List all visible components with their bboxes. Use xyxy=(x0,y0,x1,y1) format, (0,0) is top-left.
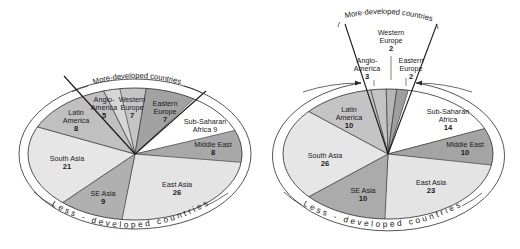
more-developed-label: More-developed countries xyxy=(344,7,434,23)
left-pie-chart: More-developed countries Less - develope… xyxy=(19,55,251,240)
label-anglo-america: Anglo-America3 xyxy=(354,56,380,81)
label-western-europe: WesternEurope2 xyxy=(378,28,405,53)
population-pie-diagrams: More-developed countries Less - develope… xyxy=(0,0,520,249)
label-eastern-europe: EasternEurope2 xyxy=(399,56,424,81)
right-pie-chart: More-developed countries Less - develope… xyxy=(273,7,505,240)
more-developed-label: More-developed countries xyxy=(92,71,183,86)
